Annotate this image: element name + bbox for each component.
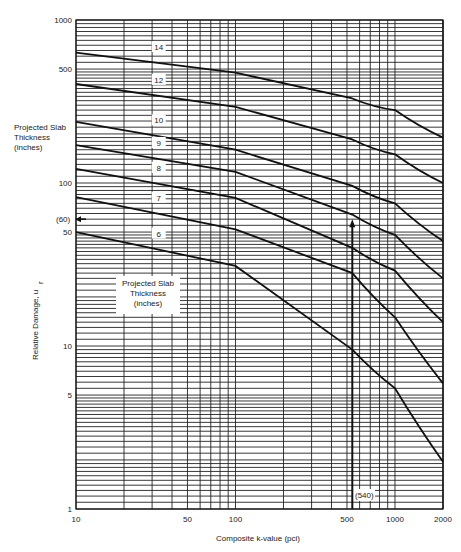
relative-damage-chart: 1412109876 1510501005001000 105010050010…: [0, 0, 461, 552]
annotation-60: (60): [56, 215, 71, 224]
y-tick-1000: 1000: [54, 16, 72, 25]
curve-label-12: 12: [154, 76, 163, 85]
curve-label-10: 10: [154, 116, 163, 125]
annotation-540: (540): [355, 491, 374, 500]
curve-label-7: 7: [156, 194, 161, 203]
y-tick-10: 10: [63, 342, 72, 351]
x-axis-ticks: 105010050010002000: [72, 515, 453, 524]
x-tick-100: 100: [229, 515, 243, 524]
grid-lines: [76, 20, 443, 509]
x-tick-50: 50: [183, 515, 192, 524]
curve-label-8: 8: [156, 164, 161, 173]
y-tick-1: 1: [68, 505, 73, 514]
mid-legend-line-3: (inches): [134, 299, 163, 308]
curve-labels: 1412109876: [152, 41, 166, 239]
legend-title-line-2: Thickness: [14, 133, 50, 142]
x-tick-500: 500: [340, 515, 354, 524]
mid-legend-line-1: Projected Slab: [122, 279, 175, 288]
legend-title-line-1: Projected Slab: [14, 123, 67, 132]
mid-legend-line-2: Thickness: [130, 289, 166, 298]
curve-label-9: 9: [156, 139, 161, 148]
y-tick-5: 5: [68, 391, 73, 400]
x-tick-2000: 2000: [434, 515, 452, 524]
y-axis-title-subscript: r: [36, 281, 45, 284]
legend-title-line-3: (inches): [14, 143, 43, 152]
arrow-left-icon: [75, 216, 86, 222]
x-tick-1000: 1000: [386, 515, 404, 524]
curve-label-6: 6: [156, 230, 161, 239]
y-tick-100: 100: [59, 179, 73, 188]
curve-label-14: 14: [154, 43, 163, 52]
y-axis-ticks: 1510501005001000: [54, 16, 72, 514]
y-tick-50: 50: [63, 228, 72, 237]
y-axis-title: Relative Damage, u: [31, 290, 40, 360]
y-tick-500: 500: [59, 65, 73, 74]
x-tick-10: 10: [72, 515, 81, 524]
x-axis-title: Composite k-value (pci): [216, 534, 300, 543]
arrow-up-icon: [349, 219, 355, 509]
